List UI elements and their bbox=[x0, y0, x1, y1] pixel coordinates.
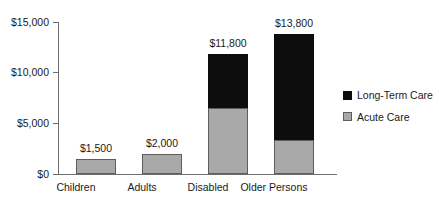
y-tick-label-2: $10,000 bbox=[11, 67, 49, 78]
legend-item-acute-care: Acute Care bbox=[343, 112, 433, 123]
bar-segment-acute-adults bbox=[142, 154, 182, 174]
bar-segment-acute-children bbox=[76, 159, 116, 174]
chart-legend: Long-Term Care Acute Care bbox=[343, 90, 433, 133]
bar-segment-longterm-older-persons bbox=[274, 34, 314, 140]
y-tick-mark-0 bbox=[53, 174, 58, 175]
bar-value-disabled: $11,800 bbox=[193, 38, 263, 49]
legend-swatch-icon-long-term-care bbox=[343, 91, 352, 100]
x-axis-line bbox=[58, 174, 337, 175]
bar-value-older-persons: $13,800 bbox=[259, 18, 329, 29]
bar-value-children: $1,500 bbox=[61, 143, 131, 154]
bar-segment-acute-disabled bbox=[208, 108, 248, 174]
bar-segment-longterm-disabled bbox=[208, 54, 248, 108]
y-tick-label-1: $5,000 bbox=[17, 118, 49, 129]
legend-swatch-icon-acute-care bbox=[343, 112, 352, 121]
legend-label-long-term-care: Long-Term Care bbox=[357, 90, 433, 101]
legend-item-long-term-care: Long-Term Care bbox=[343, 90, 433, 101]
y-tick-label-0: $0 bbox=[37, 169, 49, 180]
y-tick-label-3: $15,000 bbox=[11, 17, 49, 28]
plot-area: $1,500 $2,000 $11,800 $13,800 bbox=[58, 22, 337, 174]
legend-label-acute-care: Acute Care bbox=[357, 112, 410, 123]
bar-chart: $0 $5,000 $10,000 $15,000 $1,500 $2,000 … bbox=[0, 0, 439, 216]
bar-value-adults: $2,000 bbox=[127, 138, 197, 149]
x-category-label-older-persons: Older Persons bbox=[229, 182, 319, 193]
bar-segment-acute-older-persons bbox=[274, 140, 314, 174]
